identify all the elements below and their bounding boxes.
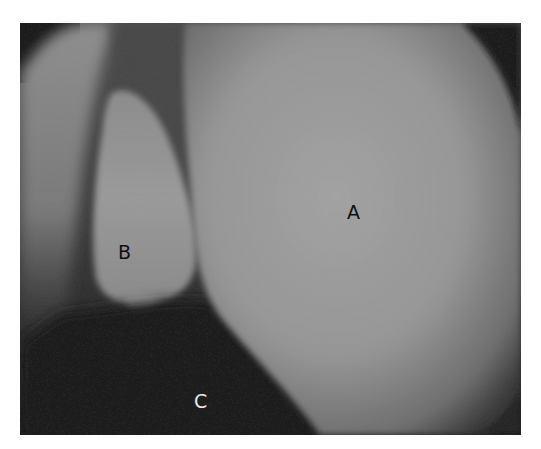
label-b: B xyxy=(118,243,131,262)
endoscopic-photo xyxy=(20,23,521,435)
label-a: A xyxy=(347,203,360,222)
label-c: C xyxy=(194,392,207,411)
